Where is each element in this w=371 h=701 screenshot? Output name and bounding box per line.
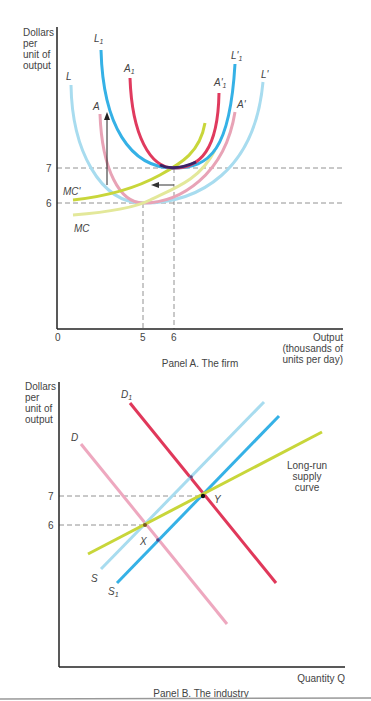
point-D1-S bbox=[189, 475, 193, 479]
panel-a: Dollars per unit of output 7 6 bbox=[23, 27, 345, 369]
x-tick-0: 0 bbox=[55, 332, 61, 343]
point-D-S1 bbox=[156, 538, 160, 542]
y-tick-6-b: 6 bbox=[48, 520, 54, 531]
curve-A1 bbox=[130, 78, 219, 168]
panel-b-y-label-line1: Dollars bbox=[25, 381, 56, 392]
panel-a-x-label-line1: Output bbox=[313, 332, 343, 343]
panel-a-y-label-line2: per bbox=[23, 38, 38, 49]
label-lrs-line3: curve bbox=[295, 482, 320, 493]
label-A: A bbox=[92, 101, 100, 112]
label-A1: A1 bbox=[123, 63, 135, 75]
label-D1: D1 bbox=[121, 389, 132, 401]
panel-b: Dollars per unit of output 7 6 Quantity … bbox=[25, 381, 345, 699]
arrow-up-icon bbox=[104, 112, 110, 120]
label-Y: Y bbox=[214, 494, 222, 505]
label-L1: L1 bbox=[94, 33, 104, 45]
panel-a-x-label-line3: units per day) bbox=[282, 354, 343, 365]
panel-b-y-label-line3: unit of bbox=[25, 403, 52, 414]
label-D: D bbox=[71, 432, 78, 443]
panel-a-y-label-line1: Dollars bbox=[23, 27, 54, 38]
label-lrs-line1: Long-run bbox=[287, 460, 327, 471]
panel-a-y-label-line3: unit of bbox=[23, 49, 50, 60]
panel-b-y-label-line2: per bbox=[25, 392, 40, 403]
point-Y bbox=[201, 494, 205, 498]
panel-a-title: Panel A. The firm bbox=[162, 358, 239, 369]
y-tick-7: 7 bbox=[46, 163, 52, 174]
label-A1-prime: A'1 bbox=[213, 77, 227, 89]
label-MC: MC bbox=[74, 223, 90, 234]
curve-D bbox=[81, 444, 227, 624]
page-divider bbox=[0, 698, 371, 699]
arrow-left-icon bbox=[151, 182, 159, 188]
y-tick-6: 6 bbox=[46, 198, 52, 209]
label-lrs-line2: supply bbox=[293, 471, 322, 482]
point-X bbox=[143, 523, 147, 527]
label-L: L bbox=[66, 71, 72, 82]
panel-b-x-label: Quantity Q bbox=[297, 673, 345, 684]
label-L-prime: L' bbox=[261, 69, 270, 80]
x-tick-5: 5 bbox=[140, 332, 146, 343]
curve-S bbox=[101, 402, 264, 569]
curve-long-run-supply bbox=[88, 432, 322, 554]
label-MC-prime: MC' bbox=[63, 186, 82, 197]
label-S1: S1 bbox=[108, 586, 119, 598]
label-S: S bbox=[91, 573, 98, 584]
diagram-canvas: Dollars per unit of output 7 6 bbox=[0, 0, 371, 701]
label-L1-prime: L'1 bbox=[231, 50, 242, 62]
curve-L1 bbox=[101, 50, 235, 168]
label-A-prime: A' bbox=[236, 99, 247, 110]
label-X: X bbox=[139, 536, 147, 547]
panel-b-title: Panel B. The industry bbox=[153, 688, 248, 699]
y-tick-7-b: 7 bbox=[48, 491, 54, 502]
panel-b-y-label-line4: output bbox=[25, 414, 53, 425]
panel-a-y-label-line4: output bbox=[23, 60, 51, 71]
panel-a-x-label-line2: (thousands of bbox=[282, 343, 343, 354]
x-tick-6: 6 bbox=[171, 332, 177, 343]
